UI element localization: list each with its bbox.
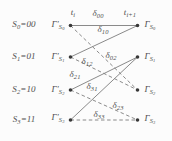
metric-prev-s0: Γ′S0 xyxy=(51,20,64,32)
state-label-s0: S0=00 xyxy=(12,20,35,31)
branch-metric-10: δ10 xyxy=(98,25,109,36)
metric-next-s0: ΓS0 xyxy=(145,20,156,32)
branch-metric-23: δ23 xyxy=(113,101,124,112)
metric-next-s2: ΓS2 xyxy=(145,85,156,97)
branch-metric-21: δ21 xyxy=(70,70,81,81)
metric-prev-s3: Γ′S3 xyxy=(51,113,64,125)
branch-metric-02: δ02 xyxy=(106,51,117,62)
metric-next-s3: ΓS3 xyxy=(145,114,156,126)
time-label-i: ti xyxy=(71,8,76,19)
branch-metric-31: δ31 xyxy=(87,82,98,93)
trellis-label-layer: S0=00S1=01S2=10S3=11Γ′S0Γ′S1Γ′S2Γ′S3ΓS0Γ… xyxy=(0,0,172,141)
state-label-s1: S1=01 xyxy=(12,52,35,63)
time-label-i-plus: ti+1 xyxy=(124,8,136,19)
branch-metric-12: δ12 xyxy=(82,57,93,68)
viterbi-trellis-diagram: S0=00S1=01S2=10S3=11Γ′S0Γ′S1Γ′S2Γ′S3ΓS0Γ… xyxy=(0,0,172,141)
state-label-s2: S2=10 xyxy=(12,85,35,96)
metric-next-s1: ΓS1 xyxy=(145,52,156,64)
metric-prev-s1: Γ′S1 xyxy=(51,52,64,64)
branch-metric-33: δ33 xyxy=(94,110,105,121)
branch-metric-00: δ00 xyxy=(93,9,104,20)
metric-prev-s2: Γ′S2 xyxy=(51,85,64,97)
state-label-s3: S3=11 xyxy=(13,115,36,126)
